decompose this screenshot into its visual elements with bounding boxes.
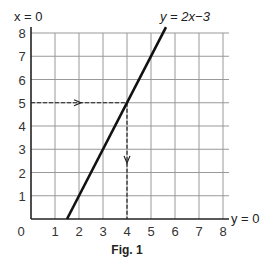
y-tick-label: 1	[18, 189, 25, 204]
y-tick-label: 4	[18, 119, 25, 134]
y-tick-label: 6	[18, 73, 25, 88]
x-tick-label: 4	[123, 224, 130, 239]
x-axis-label: y = 0	[231, 211, 260, 226]
y-tick-label: 5	[18, 96, 25, 111]
x-tick-label: 1	[51, 224, 58, 239]
x-tick-label: 6	[171, 224, 178, 239]
y-tick-labels: 12345678	[18, 26, 25, 204]
y-axis-label: x = 0	[14, 9, 43, 24]
equation-label: y = 2x−3	[159, 9, 211, 24]
x-tick-label: 0	[17, 224, 24, 239]
y-tick-label: 7	[18, 49, 25, 64]
x-tick-labels: 012345678	[17, 224, 226, 239]
x-tick-label: 5	[147, 224, 154, 239]
grid	[31, 33, 229, 219]
dashed-guides	[31, 100, 130, 219]
x-tick-label: 7	[195, 224, 202, 239]
chart-svg: 012345678 12345678 x = 0 y = 2x−3 y = 0 …	[0, 0, 277, 269]
figure-caption: Fig. 1	[111, 243, 143, 257]
y-tick-label: 8	[18, 26, 25, 41]
x-tick-label: 8	[219, 224, 226, 239]
x-tick-label: 3	[99, 224, 106, 239]
y-tick-label: 2	[18, 166, 25, 181]
x-tick-label: 2	[75, 224, 82, 239]
y-tick-label: 3	[18, 142, 25, 157]
